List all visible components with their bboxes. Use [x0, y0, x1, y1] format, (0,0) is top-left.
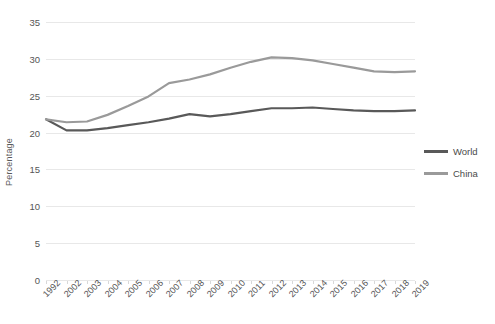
x-axis-tick-label: 2018 — [389, 278, 410, 299]
x-axis-tick-mark — [292, 281, 293, 284]
x-axis-tick-label: 2011 — [246, 278, 267, 299]
x-axis-tick-label: 2013 — [287, 278, 308, 299]
x-axis-tick-mark — [149, 281, 150, 284]
x-axis-tick-mark — [251, 281, 252, 284]
y-axis-title: Percentage — [0, 0, 18, 324]
x-axis-tick-mark — [128, 281, 129, 284]
x-axis-tick-mark — [87, 281, 88, 284]
series-line-world — [46, 108, 415, 131]
x-axis-tick-mark — [67, 281, 68, 284]
legend-swatch-icon — [424, 172, 448, 175]
x-axis-tick-mark — [169, 281, 170, 284]
y-axis-tick-label: 20 — [29, 127, 40, 138]
x-axis-tick-mark — [210, 281, 211, 284]
y-axis-tick-label: 15 — [29, 164, 40, 175]
x-axis-tick-mark — [272, 281, 273, 284]
legend-item-china[interactable]: China — [424, 162, 495, 184]
legend-swatch-icon — [424, 150, 448, 153]
chart-legend: WorldChina — [424, 140, 495, 184]
x-axis-tick-mark — [415, 281, 416, 284]
x-axis-tick-label: 2009 — [205, 278, 226, 299]
x-axis-tick-label: 2010 — [225, 278, 246, 299]
x-axis-tick-mark — [354, 281, 355, 284]
x-axis-tick-mark — [395, 281, 396, 284]
x-axis-tick-label: 2012 — [266, 278, 287, 299]
x-axis-tick-mark — [374, 281, 375, 284]
x-axis-tick-label: 2016 — [348, 278, 369, 299]
x-axis-tick-label: 1992 — [41, 278, 62, 299]
x-axis-tick-mark — [333, 281, 334, 284]
y-axis-tick-label: 0 — [35, 275, 40, 286]
x-axis-tick-label: 2017 — [369, 278, 390, 299]
x-axis-tick-label: 2005 — [123, 278, 144, 299]
x-axis-tick-mark — [108, 281, 109, 284]
x-axis-tick-labels: 1992200220032004200520062007200820092010… — [46, 281, 415, 324]
x-axis-tick-label: 2006 — [143, 278, 164, 299]
x-axis-tick-label: 2008 — [184, 278, 205, 299]
y-axis-tick-label: 25 — [29, 90, 40, 101]
legend-item-world[interactable]: World — [424, 140, 495, 162]
legend-label: World — [453, 146, 478, 157]
x-axis-tick-label: 2015 — [328, 278, 349, 299]
y-axis-tick-label: 30 — [29, 53, 40, 64]
x-axis-tick-label: 2007 — [164, 278, 185, 299]
y-axis-tick-label: 5 — [35, 238, 40, 249]
x-axis-tick-mark — [190, 281, 191, 284]
series-lines — [46, 22, 415, 280]
x-axis-tick-label: 2004 — [102, 278, 123, 299]
x-axis-tick-label: 2019 — [410, 278, 431, 299]
x-axis-tick-mark — [231, 281, 232, 284]
x-axis-tick-label: 2003 — [82, 278, 103, 299]
y-axis-tick-label: 35 — [29, 17, 40, 28]
legend-label: China — [453, 168, 478, 179]
x-axis-tick-label: 2002 — [61, 278, 82, 299]
x-axis-tick-label: 2014 — [307, 278, 328, 299]
x-axis-tick-mark — [46, 281, 47, 284]
x-axis-tick-mark — [313, 281, 314, 284]
plot-area: 05101520253035 — [46, 22, 415, 280]
series-line-china — [46, 57, 415, 122]
line-chart: Percentage 05101520253035 19922002200320… — [0, 0, 495, 324]
y-axis-tick-label: 10 — [29, 201, 40, 212]
